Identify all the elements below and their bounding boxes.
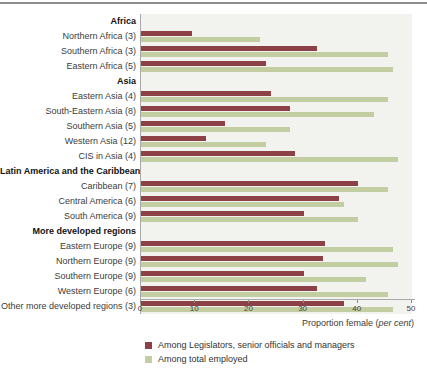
x-tick-label: 40	[346, 304, 368, 313]
x-tick-mark	[248, 300, 249, 303]
legend-item: Among Legislators, senior officials and …	[145, 338, 354, 352]
bar-total-employed	[141, 97, 388, 102]
bar-pair	[141, 149, 412, 162]
bar-legislators	[141, 196, 339, 201]
bar-legislators	[141, 286, 317, 291]
group-header-row: Asia	[0, 74, 427, 89]
category-label: Central America (6)	[0, 194, 140, 209]
bar-legislators	[141, 106, 290, 111]
bar-legislators	[141, 91, 271, 96]
bar-legislators	[141, 211, 304, 216]
x-axis-label: Proportion female (per cent)	[0, 318, 414, 328]
top-rule-divider	[0, 2, 427, 4]
plot-band	[140, 239, 412, 254]
x-axis-label-suffix: )	[411, 318, 414, 328]
plot-band	[140, 164, 412, 179]
bar-total-employed	[141, 37, 260, 42]
bar-total-employed	[141, 277, 366, 282]
legend-label: Among total employed	[158, 354, 248, 364]
x-axis: 01020304050	[140, 299, 415, 316]
category-label: South America (9)	[0, 209, 140, 224]
category-label: CIS in Asia (4)	[0, 149, 140, 164]
category-label: Eastern Africa (5)	[0, 59, 140, 74]
category-label: Eastern Asia (4)	[0, 89, 140, 104]
plot-band	[140, 29, 412, 44]
bar-pair	[141, 284, 412, 297]
x-tick-mark	[357, 300, 358, 303]
bar-pair	[141, 29, 412, 42]
x-tick-mark	[303, 300, 304, 303]
plot-band	[140, 209, 412, 224]
x-axis-label-text: Proportion female (	[302, 318, 379, 328]
legend: Among Legislators, senior officials and …	[145, 338, 354, 366]
category-row: Eastern Africa (5)	[0, 59, 427, 74]
plot-band	[140, 74, 412, 89]
category-row: Northern Europe (9)	[0, 254, 427, 269]
bar-legislators	[141, 61, 266, 66]
category-label: Northern Africa (3)	[0, 29, 140, 44]
plot-band	[140, 104, 412, 119]
plot-band	[140, 194, 412, 209]
group-header-label: Asia	[0, 74, 140, 89]
bar-pair	[141, 239, 412, 252]
plot-band	[140, 134, 412, 149]
plot-band	[140, 44, 412, 59]
category-label: Western Asia (12)	[0, 134, 140, 149]
plot-band	[140, 254, 412, 269]
x-tick-mark	[411, 300, 412, 303]
bar-legislators	[141, 271, 304, 276]
bar-pair	[141, 44, 412, 57]
category-label: Southern Asia (5)	[0, 119, 140, 134]
category-row: Western Europe (6)	[0, 284, 427, 299]
group-header-label: Latin America and the Caribbean	[0, 164, 140, 179]
bar-total-employed	[141, 52, 388, 57]
category-label: Other more developed regions (3)	[0, 299, 140, 314]
plot-band	[140, 179, 412, 194]
bar-legislators	[141, 181, 358, 186]
category-row: Northern Africa (3)	[0, 29, 427, 44]
bar-total-employed	[141, 292, 388, 297]
plot-band	[140, 149, 412, 164]
group-header-row: Africa	[0, 14, 427, 29]
plot-band	[140, 224, 412, 239]
category-label: Eastern Europe (9)	[0, 239, 140, 254]
group-header-label: More developed regions	[0, 224, 140, 239]
x-tick-label: 30	[292, 304, 314, 313]
bar-total-employed	[141, 112, 374, 117]
bar-legislators	[141, 136, 206, 141]
plot-band	[140, 89, 412, 104]
bar-total-employed	[141, 217, 358, 222]
bar-pair	[141, 119, 412, 132]
bar-legislators	[141, 241, 325, 246]
bar-total-employed	[141, 262, 398, 267]
bar-pair	[141, 254, 412, 267]
category-row: Western Asia (12)	[0, 134, 427, 149]
x-tick-label: 0	[129, 304, 151, 313]
category-row: CIS in Asia (4)	[0, 149, 427, 164]
group-header-row: More developed regions	[0, 224, 427, 239]
bar-pair	[141, 194, 412, 207]
x-tick-label: 50	[400, 304, 422, 313]
bar-pair	[141, 269, 412, 282]
bar-chart-plot: AfricaNorthern Africa (3)Southern Africa…	[0, 14, 427, 314]
category-label: Western Europe (6)	[0, 284, 140, 299]
legend-swatch-legislators	[145, 342, 152, 349]
group-header-row: Latin America and the Caribbean	[0, 164, 427, 179]
bar-legislators	[141, 46, 317, 51]
plot-band	[140, 14, 412, 29]
category-row: Caribbean (7)	[0, 179, 427, 194]
legend-label: Among Legislators, senior officials and …	[158, 340, 354, 350]
bar-legislators	[141, 31, 192, 36]
plot-band	[140, 269, 412, 284]
plot-band	[140, 119, 412, 134]
category-row: Central America (6)	[0, 194, 427, 209]
bar-total-employed	[141, 127, 290, 132]
plot-band	[140, 59, 412, 74]
bar-pair	[141, 209, 412, 222]
group-header-label: Africa	[0, 14, 140, 29]
bar-total-employed	[141, 187, 388, 192]
bar-total-employed	[141, 202, 344, 207]
bar-legislators	[141, 256, 323, 261]
category-row: South America (9)	[0, 209, 427, 224]
bar-pair	[141, 104, 412, 117]
